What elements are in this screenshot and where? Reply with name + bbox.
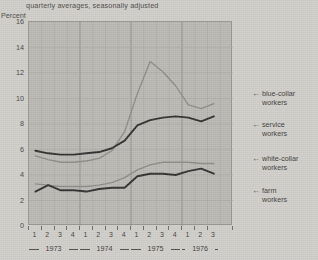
series-line xyxy=(35,169,214,192)
x-axis-tick xyxy=(130,226,131,230)
y-tick-label: 0 xyxy=(2,221,24,230)
legend-label-blue-collar-line2: workers xyxy=(262,98,295,107)
year-rule xyxy=(131,249,141,250)
year-rule xyxy=(120,249,130,250)
x-axis-tick xyxy=(66,226,67,230)
x-axis-tick xyxy=(117,226,118,230)
x-axis-tick xyxy=(168,226,169,230)
year-rule xyxy=(29,249,39,250)
y-tick-label: 16 xyxy=(2,17,24,26)
x-axis-tick xyxy=(92,226,93,230)
legend-label-white-collar-line2: workers xyxy=(262,163,298,172)
x-axis-tick xyxy=(207,226,208,230)
x-axis-tick xyxy=(143,226,144,230)
legend-label-service-line2: workers xyxy=(262,129,287,138)
year-rule xyxy=(80,249,90,250)
y-tick-label: 14 xyxy=(2,43,24,52)
x-axis-tick xyxy=(28,226,29,230)
x-axis-tick xyxy=(181,226,182,230)
y-tick-label: 10 xyxy=(2,94,24,103)
year-rule xyxy=(69,249,79,250)
year-rule xyxy=(182,249,185,250)
series-line xyxy=(35,162,214,186)
chart-subtitle: quarterly averages, seasonally adjusted xyxy=(26,1,159,10)
x-axis-tick xyxy=(54,226,55,230)
legend-item-white-collar: white-collar workers xyxy=(262,154,298,172)
x-axis-tick xyxy=(41,226,42,230)
year-rule xyxy=(215,249,218,250)
x-axis-tick xyxy=(156,226,157,230)
y-tick-label: 12 xyxy=(2,68,24,77)
x-axis-tick xyxy=(105,226,106,230)
legend-item-service: service workers xyxy=(262,120,287,138)
x-axis-tick xyxy=(79,226,80,230)
y-tick-label: 6 xyxy=(2,145,24,154)
legend-item-farm: farm workers xyxy=(262,186,287,204)
legend-arrow-farm-icon: ← xyxy=(252,187,260,195)
x-axis-tick xyxy=(194,226,195,230)
year-label: 1973 xyxy=(41,244,67,253)
legend-label-farm-line1: farm xyxy=(262,186,287,195)
legend-label-farm-line2: workers xyxy=(262,195,287,204)
year-label: 1976 xyxy=(187,244,213,253)
legend-arrow-white-collar-icon: ← xyxy=(252,155,260,163)
y-tick-label: 2 xyxy=(2,196,24,205)
legend-label-service-line1: service xyxy=(262,120,287,129)
year-label: 1974 xyxy=(92,244,118,253)
legend-arrow-blue-collar-icon: ← xyxy=(252,90,260,98)
series-line xyxy=(35,116,214,154)
legend-item-blue-collar: blue-collar workers xyxy=(262,89,295,107)
plot-area xyxy=(28,21,232,225)
y-tick-label: 4 xyxy=(2,170,24,179)
year-rule xyxy=(171,249,181,250)
legend-arrow-service-icon: ← xyxy=(252,121,260,129)
legend-label-blue-collar-line1: blue-collar xyxy=(262,89,295,98)
x-axis-tick xyxy=(232,226,233,230)
year-label: 1975 xyxy=(143,244,169,253)
series-line xyxy=(35,62,214,163)
legend-label-white-collar-line1: white-collar xyxy=(262,154,298,163)
y-tick-label: 8 xyxy=(2,119,24,128)
x-tick-label: 3 xyxy=(206,231,220,238)
series-lines xyxy=(29,22,233,226)
